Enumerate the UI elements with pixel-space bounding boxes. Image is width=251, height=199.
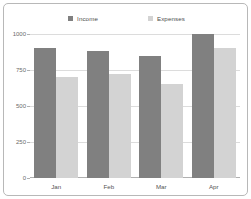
- bar-income-mar[interactable]: [139, 56, 161, 178]
- y-tick-label-750: 750: [16, 67, 26, 73]
- bar-group-apr: Apr: [188, 34, 241, 178]
- y-tick-label-250: 250: [16, 139, 26, 145]
- bar-series-container: JanFebMarApr: [30, 34, 240, 178]
- bar-expenses-jan[interactable]: [56, 77, 78, 178]
- legend-swatch-expenses-icon: [148, 16, 153, 21]
- x-tick-label-mar: Mar: [135, 184, 188, 190]
- bar-group-feb: Feb: [83, 34, 136, 178]
- legend-item-expenses[interactable]: Expenses: [148, 16, 185, 22]
- bar-expenses-mar[interactable]: [161, 84, 183, 178]
- x-tick-label-apr: Apr: [188, 184, 241, 190]
- chart-legend: Income Expenses: [4, 12, 249, 26]
- y-tick-mark-0: [27, 178, 30, 179]
- legend-item-income[interactable]: Income: [68, 16, 98, 22]
- legend-label-expenses: Expenses: [157, 16, 185, 22]
- bar-group-mar: Mar: [135, 34, 188, 178]
- legend-swatch-income-icon: [68, 16, 73, 21]
- bar-expenses-apr[interactable]: [214, 48, 236, 178]
- y-tick-label-1000: 1000: [13, 31, 26, 37]
- bar-expenses-feb[interactable]: [109, 74, 131, 178]
- x-tick-label-feb: Feb: [83, 184, 136, 190]
- legend-label-income: Income: [77, 16, 98, 22]
- bar-income-apr[interactable]: [192, 34, 214, 178]
- chart-frame: Income Expenses 02505007501000 JanFebMar…: [3, 3, 248, 196]
- plot-area: 02505007501000 JanFebMarApr: [30, 34, 240, 178]
- y-tick-label-0: 0: [23, 175, 26, 181]
- y-tick-label-500: 500: [16, 103, 26, 109]
- x-tick-label-jan: Jan: [30, 184, 83, 190]
- bar-income-feb[interactable]: [87, 51, 109, 178]
- bar-income-jan[interactable]: [34, 48, 56, 178]
- bar-group-jan: Jan: [30, 34, 83, 178]
